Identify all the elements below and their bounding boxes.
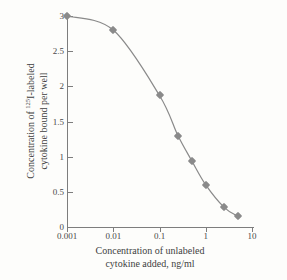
- y-axis-tick: [68, 192, 73, 193]
- y-axis-title-prefix: Concentration of: [25, 109, 36, 179]
- data-point: [174, 131, 182, 139]
- x-axis-tick-label: 1: [186, 231, 226, 242]
- y-axis-tick: [68, 86, 73, 87]
- chart-figure: 0.0010.010.1110 00.511.522.53 Concentrat…: [0, 0, 287, 280]
- data-point: [188, 157, 196, 165]
- y-axis-tick: [68, 227, 73, 228]
- data-point: [234, 212, 242, 220]
- data-point: [63, 12, 71, 20]
- y-axis-tick: [68, 157, 73, 158]
- x-axis-title: Concentration of unlabeled cytokine adde…: [50, 244, 250, 270]
- x-axis-tick-label: 0.01: [93, 231, 133, 242]
- x-axis-tick-label: 0.1: [140, 231, 180, 242]
- isotope-superscript: 125: [24, 99, 31, 109]
- x-axis-title-line-2: cytokine added, ng/ml: [50, 257, 250, 270]
- data-point: [109, 26, 117, 34]
- y-axis-title-line-2: cytokine bound per well: [37, 21, 50, 221]
- y-axis-tick-label: 3: [38, 11, 64, 21]
- data-point: [155, 91, 163, 99]
- x-axis-line: [67, 227, 254, 228]
- x-axis-title-line-1: Concentration of unlabeled: [50, 244, 250, 257]
- y-axis-title-suffix: I-labeled: [25, 63, 36, 99]
- data-point: [202, 181, 210, 189]
- x-axis-tick-label: 10: [232, 231, 272, 242]
- y-axis-tick: [68, 51, 73, 52]
- data-point: [220, 203, 228, 211]
- y-axis-tick-label: 0: [38, 222, 64, 232]
- y-axis-title: Concentration of 125I-labeled cytokine b…: [24, 21, 50, 221]
- y-axis-title-line-1: Concentration of 125I-labeled: [24, 21, 37, 221]
- y-axis-tick: [68, 122, 73, 123]
